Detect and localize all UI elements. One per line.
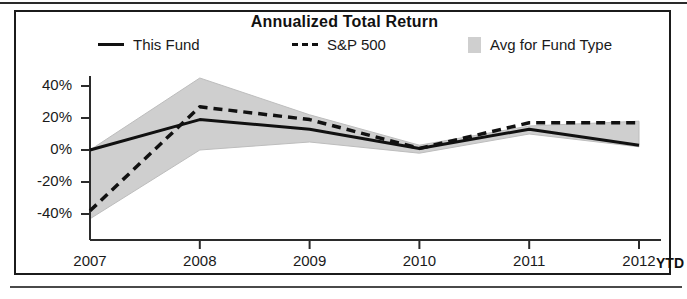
x-axis-tick-label: 2009 — [280, 252, 340, 269]
y-axis-tick-label: 20% — [16, 108, 72, 125]
y-axis-tick-label: -40% — [16, 204, 72, 221]
x-axis-tick-label: 2007 — [60, 252, 120, 269]
chart-svg — [16, 12, 673, 277]
x-axis-tick-label: 2010 — [389, 252, 449, 269]
x-axis-tick-label: 2011 — [499, 252, 559, 269]
annualized-total-return-chart: Annualized Total Return This Fund S&P 50… — [14, 10, 671, 275]
y-axis-tick-label: -20% — [16, 172, 72, 189]
x-axis-ytd-label: YTD — [656, 255, 684, 271]
plot-area: 40%20%0%-20%-40%200720082009201020112012… — [16, 12, 673, 277]
y-axis-tick-label: 0% — [16, 140, 72, 157]
bottom-divider-rule — [10, 286, 682, 288]
y-axis-tick-label: 40% — [16, 76, 72, 93]
avg-for-fund-type-band — [90, 78, 639, 219]
x-axis-tick-label: 2008 — [170, 252, 230, 269]
top-divider-rule — [0, 2, 687, 4]
